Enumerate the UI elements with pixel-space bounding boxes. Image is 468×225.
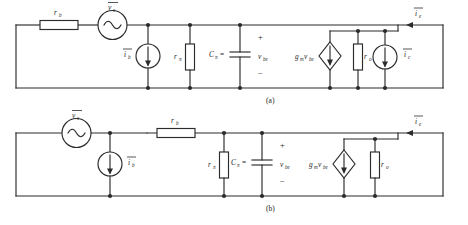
resistor-rpi-b-label: r (208, 160, 211, 169)
voltage-vbe-sublabel: be (263, 56, 269, 62)
resistor-rpi-label: r (174, 52, 177, 61)
voltage-vbe-label: v (258, 52, 262, 61)
source-ib-b-sublabel: b (132, 162, 135, 168)
resistor-ro-body (354, 44, 363, 70)
node-b-ib-bottom (108, 194, 112, 198)
node-b-rpi-top (222, 131, 226, 135)
capacitor-cpi-sublabel: π (215, 54, 218, 60)
current-ie-sublabel: e (419, 13, 422, 19)
node-a-gm-bottom (328, 86, 332, 90)
source-gmvbe-sublabel-be: be (309, 56, 315, 62)
caption-a: (a) (266, 96, 275, 105)
node-b-ro-top (373, 137, 377, 141)
node-b-rpi-bottom (222, 194, 226, 198)
current-ie-label: i (415, 9, 417, 18)
capacitor-cpi-b-label: C (231, 158, 236, 167)
resistor-rpi-body (186, 44, 195, 70)
resistor-rpi-b-sublabel: π (213, 164, 216, 170)
resistor-ro-b-body (371, 152, 380, 178)
polarity-b-plus: + (280, 140, 285, 150)
resistor-rb-body (40, 21, 78, 30)
source-ib-sublabel: b (128, 54, 131, 60)
caption-b: (b) (266, 204, 275, 213)
resistor-rb-label: r (54, 8, 57, 17)
source-gmvbe-b-label-v: v (318, 160, 322, 169)
resistor-ro-b-sublabel: o (386, 164, 389, 170)
current-ie-b-arrow (406, 130, 413, 136)
source-vs-b-sublabel: s (77, 115, 79, 121)
polarity-a-plus: + (258, 32, 263, 42)
source-ic-sublabel: c (408, 54, 411, 60)
resistor-rb-b-label: r (171, 116, 174, 125)
source-ic-label: i (404, 50, 406, 59)
node-a-ic-bottom (383, 86, 387, 90)
current-ie-b-label: i (415, 117, 417, 126)
capacitor-cpi-equals: = (220, 50, 224, 59)
node-b-ib-top (108, 131, 112, 135)
capacitor-cpi-label: C (209, 50, 214, 59)
resistor-rpi-sublabel: π (179, 56, 182, 62)
source-ib-b-label: i (128, 158, 130, 167)
circuit-b: v s i b r b r π C π = + (16, 111, 443, 214)
node-b-cpi-top (260, 131, 264, 135)
source-gmvbe-label-g: g (295, 52, 299, 61)
node-a-rpi-bottom (188, 86, 192, 90)
node-a-ro-top (356, 29, 360, 33)
node-a-ib-bottom (146, 86, 150, 90)
node-a-ro-bottom (356, 86, 360, 90)
capacitor-cpi-b-sublabel: π (237, 162, 240, 168)
resistor-rpi-b-body (220, 152, 229, 178)
voltage-vbe-b-sublabel: be (285, 164, 291, 170)
source-vs-sublabel: s (113, 7, 115, 13)
node-b-gm-bottom (342, 194, 346, 198)
resistor-rb-b-sublabel: b (176, 120, 179, 126)
current-ie-b-sublabel: e (419, 121, 422, 127)
polarity-b-minus: − (280, 176, 285, 186)
circuit-a: r b v s i b r π C π = (16, 3, 443, 106)
node-a-cpi-bottom (238, 86, 242, 90)
resistor-rb-sublabel: b (59, 12, 62, 18)
node-b-cpi-bottom (260, 194, 264, 198)
resistor-ro-label: r (364, 52, 367, 61)
node-a-cpi-top (238, 23, 242, 27)
polarity-a-minus: − (258, 68, 263, 78)
node-a-ib-top (146, 23, 150, 27)
resistor-ro-sublabel: o (369, 56, 372, 62)
resistor-ro-b-label: r (381, 160, 384, 169)
source-ib-label: i (124, 50, 126, 59)
current-ie-arrow (406, 22, 413, 28)
capacitor-cpi-b-equals: = (242, 158, 246, 167)
source-gmvbe-b-sublabel-be: be (323, 164, 329, 170)
node-b-ro-bottom (373, 194, 377, 198)
node-a-ic-top (383, 29, 387, 33)
resistor-rb-b-body (157, 129, 195, 138)
source-gmvbe-label-v: v (304, 52, 308, 61)
node-a-rpi-top (188, 23, 192, 27)
voltage-vbe-b-label: v (280, 160, 284, 169)
source-gmvbe-b-label-g: g (309, 160, 313, 169)
circuit-diagram: r b v s i b r π C π = (0, 0, 468, 225)
figure-container: r b v s i b r π C π = (0, 0, 468, 225)
